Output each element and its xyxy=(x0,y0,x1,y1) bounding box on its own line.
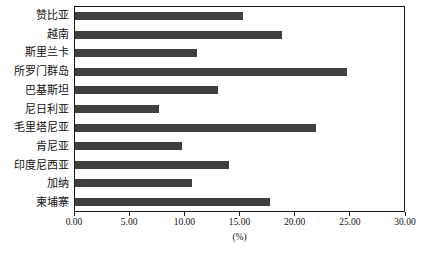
bar-row xyxy=(75,137,404,156)
bars-layer xyxy=(75,7,404,211)
x-tick-label: 20.00 xyxy=(284,217,305,227)
x-tick-mark xyxy=(239,212,240,216)
plot-area xyxy=(74,6,405,212)
category-label: 斯里兰卡 xyxy=(0,43,72,62)
bar xyxy=(75,31,282,39)
x-tick-mark xyxy=(405,212,406,216)
category-axis: 赞比亚越南斯里兰卡所罗门群岛巴基斯坦尼日利亚毛里塔尼亚肯尼亚印度尼西亚加纳柬埔寨 xyxy=(0,6,72,212)
x-tick-label: 30.00 xyxy=(394,217,415,227)
bar-row xyxy=(75,81,404,100)
bar-row xyxy=(75,192,404,211)
category-label: 加纳 xyxy=(0,175,72,194)
bar xyxy=(75,124,316,132)
x-tick-label: 15.00 xyxy=(229,217,250,227)
bar xyxy=(75,12,243,20)
bar xyxy=(75,86,218,94)
bar xyxy=(75,105,159,113)
category-label: 柬埔寨 xyxy=(0,193,72,212)
x-tick-label: 0.00 xyxy=(66,217,83,227)
x-tick-label: 5.00 xyxy=(121,217,138,227)
bar-row xyxy=(75,7,404,26)
x-axis-title: (%) xyxy=(232,232,246,242)
category-label: 所罗门群岛 xyxy=(0,62,72,81)
bar xyxy=(75,49,197,57)
category-label: 巴基斯坦 xyxy=(0,81,72,100)
x-tick-label: 25.00 xyxy=(339,217,360,227)
bar-chart: 赞比亚越南斯里兰卡所罗门群岛巴基斯坦尼日利亚毛里塔尼亚肯尼亚印度尼西亚加纳柬埔寨… xyxy=(0,0,421,255)
bar-row xyxy=(75,26,404,45)
category-label: 毛里塔尼亚 xyxy=(0,118,72,137)
bar-row xyxy=(75,118,404,137)
bar-row xyxy=(75,174,404,193)
x-tick-mark xyxy=(129,212,130,216)
bar-row xyxy=(75,155,404,174)
x-tick-mark xyxy=(349,212,350,216)
category-label: 赞比亚 xyxy=(0,6,72,25)
bar-row xyxy=(75,100,404,119)
bar xyxy=(75,179,192,187)
bar xyxy=(75,161,229,169)
x-tick-label: 10.00 xyxy=(174,217,195,227)
bar xyxy=(75,68,347,76)
category-label: 越南 xyxy=(0,25,72,44)
bar-row xyxy=(75,44,404,63)
bar xyxy=(75,142,182,150)
category-label: 尼日利亚 xyxy=(0,100,72,119)
x-tick-mark xyxy=(294,212,295,216)
x-tick-mark xyxy=(74,212,75,216)
x-axis: (%) 0.005.0010.0015.0020.0025.0030.00 xyxy=(74,212,405,252)
bar xyxy=(75,198,270,206)
category-label: 肯尼亚 xyxy=(0,137,72,156)
bar-row xyxy=(75,63,404,82)
category-label: 印度尼西亚 xyxy=(0,156,72,175)
x-tick-mark xyxy=(184,212,185,216)
